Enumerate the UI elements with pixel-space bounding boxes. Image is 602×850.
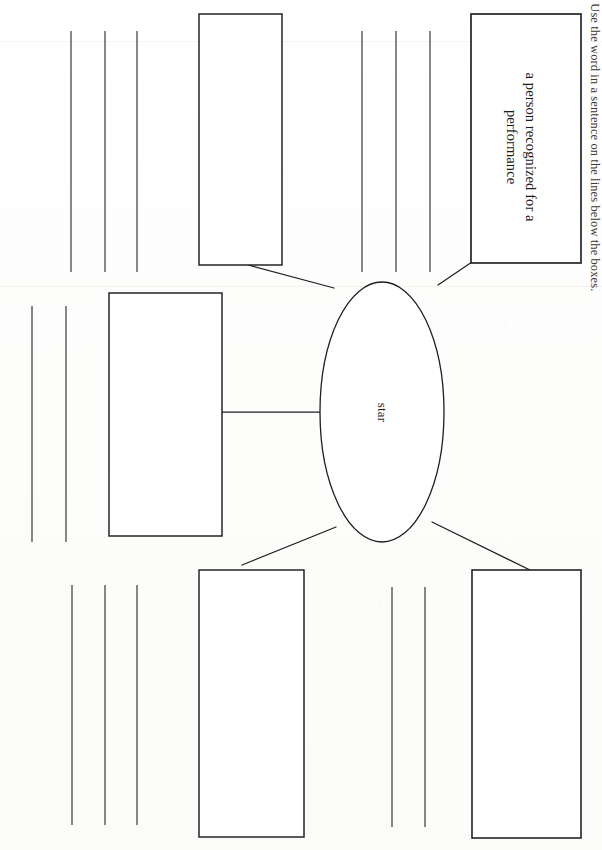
connector-to-bottom-right-box	[432, 522, 530, 570]
box-top-left[interactable]	[199, 14, 282, 265]
box-bottom-right[interactable]	[472, 570, 581, 838]
lines-bottom-left[interactable]	[72, 585, 137, 825]
worksheet-instruction: Use the word in a sentence on the lines …	[587, 3, 602, 413]
worksheet-page: star a person recognized for a performan…	[0, 0, 602, 850]
lines-top-left[interactable]	[71, 31, 137, 272]
lines-bottom-right[interactable]	[392, 587, 425, 827]
definition-box-text: a person recognized for a performance	[501, 45, 539, 250]
lines-top-right[interactable]	[362, 31, 430, 272]
center-word-label: star	[373, 358, 390, 468]
box-bottom-left[interactable]	[199, 570, 304, 837]
box-left[interactable]	[109, 293, 222, 536]
connector-to-top-left-box	[248, 265, 334, 288]
connector-to-definition-box	[438, 262, 472, 285]
connector-to-bottom-left-box	[242, 527, 336, 565]
lines-mid-left[interactable]	[32, 306, 66, 542]
